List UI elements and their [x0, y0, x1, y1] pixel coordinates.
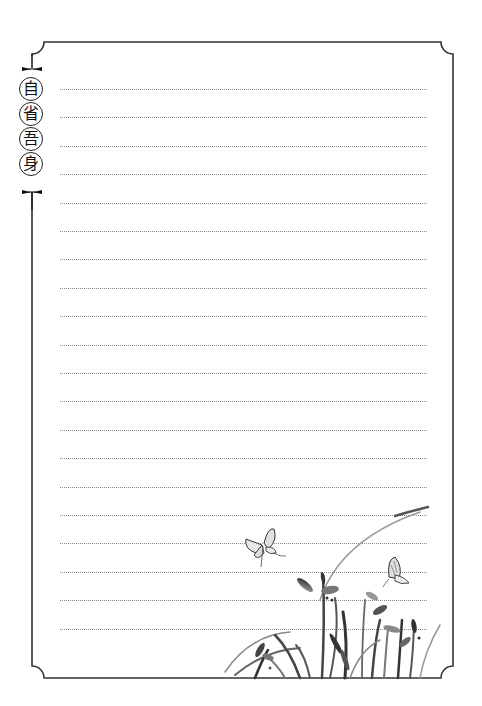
grass-butterfly-illustration	[0, 0, 482, 706]
butterfly-right-icon	[383, 557, 409, 587]
grass-cluster	[225, 507, 440, 678]
butterfly-left-icon	[246, 529, 286, 567]
stationery-page: 自 省 吾 身	[0, 0, 482, 706]
